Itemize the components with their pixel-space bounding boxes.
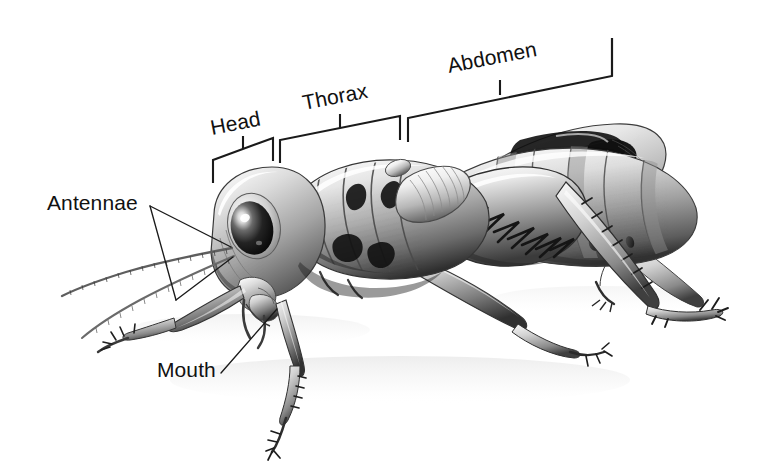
callout-antennae[interactable]: Antennae <box>47 191 233 300</box>
anatomy-figure: Head Thorax Abdomen Antennae Mouth <box>0 0 783 471</box>
callout-abdomen[interactable]: Abdomen <box>408 37 612 142</box>
label-head[interactable]: Head <box>208 107 262 139</box>
callout-thorax[interactable]: Thorax <box>280 79 400 163</box>
label-antennae[interactable]: Antennae <box>47 191 138 214</box>
antennae-leader-lower <box>150 206 176 300</box>
grasshopper-diagram-svg: Head Thorax Abdomen Antennae Mouth <box>0 0 783 471</box>
label-abdomen[interactable]: Abdomen <box>445 37 538 77</box>
label-thorax[interactable]: Thorax <box>300 79 370 114</box>
label-mouth[interactable]: Mouth <box>157 358 216 381</box>
